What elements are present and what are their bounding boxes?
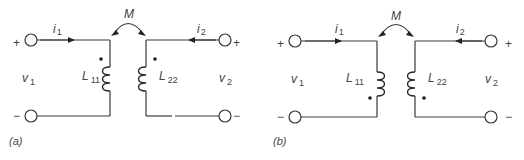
terminal-right-bottom	[219, 110, 231, 122]
arc-arrow-right-icon	[406, 31, 414, 37]
inductor-l11-coil	[103, 67, 111, 91]
label-i2: i2	[197, 22, 206, 37]
label-mutual-m: M	[391, 9, 401, 23]
label-mutual-m: M	[124, 7, 134, 21]
label-v1: v1	[22, 71, 35, 87]
minus-sign-right: −	[233, 109, 240, 123]
label-v2: v2	[485, 72, 498, 88]
terminal-right-bottom	[485, 111, 497, 123]
inductor-l22-coil	[139, 67, 147, 91]
polarity-dot-l22	[422, 96, 426, 100]
terminal-left-bottom	[289, 111, 301, 123]
coupled-inductor-diagram: + − + − i1 i2 v1 v2 L11 L22 M (a)	[0, 0, 524, 160]
label-i1: i1	[53, 22, 62, 37]
minus-sign-left: −	[277, 110, 284, 124]
panel-a: + − + − i1 i2 v1 v2 L11 L22 M (a)	[9, 7, 240, 147]
plus-sign-left: +	[13, 36, 20, 50]
label-l22: L22	[428, 71, 447, 87]
plus-sign-right: +	[233, 36, 240, 50]
inductor-l22-coil	[408, 72, 416, 96]
arc-arrow-left-icon	[111, 30, 119, 36]
terminal-right-top	[485, 35, 497, 47]
minus-sign-left: −	[13, 109, 20, 123]
arc-arrow-left-icon	[378, 31, 386, 37]
terminal-left-bottom	[25, 110, 37, 122]
panel-caption-b: (b)	[273, 135, 287, 147]
terminal-left-top	[25, 34, 37, 46]
panel-b: + − + − i1 i2 v1 v2 L11 L22 M (b)	[273, 9, 512, 147]
plus-sign-right: +	[505, 37, 512, 51]
label-v2: v2	[219, 71, 232, 87]
label-i1: i1	[335, 22, 344, 37]
label-v1: v1	[291, 72, 304, 88]
plus-sign-left: +	[277, 37, 284, 51]
minus-sign-right: −	[505, 110, 512, 124]
arc-arrow-right-icon	[138, 30, 146, 36]
label-l11: L11	[82, 69, 100, 85]
terminal-left-top	[289, 35, 301, 47]
inductor-l11-coil	[377, 72, 385, 96]
label-l22: L22	[159, 69, 178, 85]
label-l11: L11	[346, 71, 364, 87]
panel-caption-a: (a)	[9, 135, 23, 147]
polarity-dot-l22	[153, 57, 157, 61]
label-i2: i2	[456, 22, 465, 37]
polarity-dot-l11	[99, 57, 103, 61]
polarity-dot-l11	[368, 96, 372, 100]
terminal-right-top	[219, 34, 231, 46]
